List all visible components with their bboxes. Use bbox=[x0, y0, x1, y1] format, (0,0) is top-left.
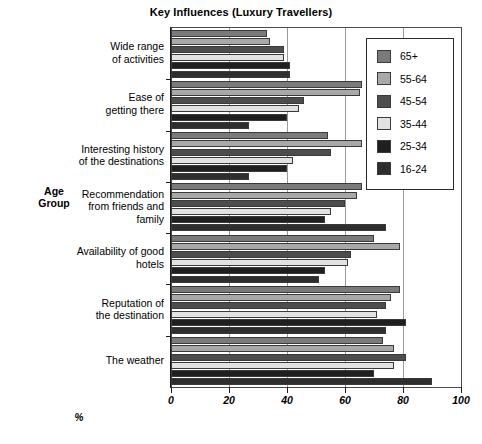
y-axis-label: Recommendationfrom friends andfamily bbox=[14, 188, 164, 226]
bar bbox=[171, 235, 374, 242]
bar bbox=[171, 370, 374, 377]
y-axis-label-line: Wide range bbox=[14, 40, 164, 53]
x-tick-label-80: 80 bbox=[397, 394, 409, 406]
bar bbox=[171, 259, 348, 266]
legend-swatch-icon bbox=[377, 95, 391, 108]
y-axis-label-line: from friends and bbox=[14, 200, 164, 213]
legend-swatch-icon bbox=[377, 140, 391, 153]
y-axis-label-line: Ease of bbox=[14, 91, 164, 104]
y-tick bbox=[166, 336, 171, 337]
x-tick-100 bbox=[461, 387, 462, 393]
bar bbox=[171, 183, 362, 190]
bar bbox=[171, 354, 406, 361]
y-axis-label-line: The weather bbox=[14, 354, 164, 367]
bar bbox=[171, 200, 345, 207]
bar bbox=[171, 122, 249, 129]
y-axis-label: The weather bbox=[14, 354, 164, 367]
y-axis-label-line: Interesting history bbox=[14, 143, 164, 156]
bar bbox=[171, 319, 406, 326]
y-tick bbox=[166, 284, 171, 285]
x-tick-20 bbox=[229, 387, 230, 393]
bar bbox=[171, 81, 362, 88]
bar bbox=[171, 302, 386, 309]
bar bbox=[171, 157, 293, 164]
bar bbox=[171, 54, 284, 61]
legend-item-16-24[interactable]: 16-24 bbox=[377, 162, 427, 176]
legend-label: 45-54 bbox=[400, 95, 427, 107]
x-tick-80 bbox=[403, 387, 404, 393]
legend-swatch-icon bbox=[377, 72, 391, 85]
bar bbox=[171, 224, 386, 231]
legend-label: 55-64 bbox=[400, 73, 427, 85]
legend-item-55-64[interactable]: 55-64 bbox=[377, 72, 427, 86]
y-axis-label: Ease ofgetting there bbox=[14, 91, 164, 116]
y-axis-label: Availability of goodhotels bbox=[14, 245, 164, 270]
bar bbox=[171, 327, 386, 334]
bar bbox=[171, 267, 325, 274]
bar bbox=[171, 286, 400, 293]
legend-item-65+[interactable]: 65+ bbox=[377, 49, 418, 63]
y-axis-label-line: hotels bbox=[14, 258, 164, 271]
y-axis-label-line: Reputation of bbox=[14, 297, 164, 310]
x-tick-label-40: 40 bbox=[281, 394, 293, 406]
bar bbox=[171, 30, 267, 37]
chart-title: Key Influences (Luxury Travellers) bbox=[0, 6, 482, 18]
bar bbox=[171, 165, 287, 172]
legend-label: 35-44 bbox=[400, 118, 427, 130]
bar-group bbox=[171, 233, 461, 284]
legend-label: 25-34 bbox=[400, 140, 427, 152]
y-tick bbox=[166, 79, 171, 80]
x-axis-title-text: % bbox=[75, 412, 84, 423]
bar bbox=[171, 62, 290, 69]
x-tick-60 bbox=[345, 387, 346, 393]
x-tick-label-20: 20 bbox=[223, 394, 235, 406]
bar-group bbox=[171, 284, 461, 335]
bar bbox=[171, 46, 284, 53]
y-tick bbox=[166, 182, 171, 183]
y-axis-label-line: of the destinations bbox=[14, 155, 164, 168]
x-axis-title: % bbox=[0, 412, 482, 423]
legend-swatch-icon bbox=[377, 162, 391, 175]
y-tick bbox=[166, 233, 171, 234]
y-axis-category-labels: Wide rangeof activitiesEase ofgetting th… bbox=[14, 27, 166, 388]
bar bbox=[171, 294, 391, 301]
bar bbox=[171, 243, 400, 250]
y-axis-label-line: Recommendation bbox=[14, 188, 164, 201]
y-axis-label-line: Availability of good bbox=[14, 245, 164, 258]
y-axis-label: Reputation ofthe destination bbox=[14, 297, 164, 322]
bar bbox=[171, 173, 249, 180]
bar bbox=[171, 362, 394, 369]
legend-label: 65+ bbox=[400, 50, 418, 62]
bar-group bbox=[171, 336, 461, 387]
legend-item-35-44[interactable]: 35-44 bbox=[377, 117, 427, 131]
bar bbox=[171, 97, 304, 104]
bar bbox=[171, 140, 362, 147]
bar bbox=[171, 208, 331, 215]
bar bbox=[171, 192, 357, 199]
y-axis-label: Interesting historyof the destinations bbox=[14, 143, 164, 168]
legend: 65+55-6445-5435-4425-3416-24 bbox=[366, 38, 454, 190]
bar bbox=[171, 311, 377, 318]
x-tick-40 bbox=[287, 387, 288, 393]
x-tick-label-60: 60 bbox=[339, 394, 351, 406]
gridline-100 bbox=[461, 28, 462, 387]
y-axis-label-line: family bbox=[14, 213, 164, 226]
legend-label: 16-24 bbox=[400, 163, 427, 175]
bar bbox=[171, 251, 351, 258]
bar bbox=[171, 337, 383, 344]
bar bbox=[171, 71, 290, 78]
bar bbox=[171, 216, 325, 223]
bar bbox=[171, 276, 319, 283]
bar bbox=[171, 105, 299, 112]
legend-item-25-34[interactable]: 25-34 bbox=[377, 139, 427, 153]
legend-swatch-icon bbox=[377, 50, 391, 63]
legend-swatch-icon bbox=[377, 117, 391, 130]
y-axis-label-line: of activities bbox=[14, 53, 164, 66]
bar bbox=[171, 149, 331, 156]
y-axis-label-line: the destination bbox=[14, 309, 164, 322]
y-axis-label: Wide rangeof activities bbox=[14, 40, 164, 65]
y-tick bbox=[166, 131, 171, 132]
x-tick-label-0: 0 bbox=[168, 394, 174, 406]
bar bbox=[171, 132, 328, 139]
legend-item-45-54[interactable]: 45-54 bbox=[377, 94, 427, 108]
